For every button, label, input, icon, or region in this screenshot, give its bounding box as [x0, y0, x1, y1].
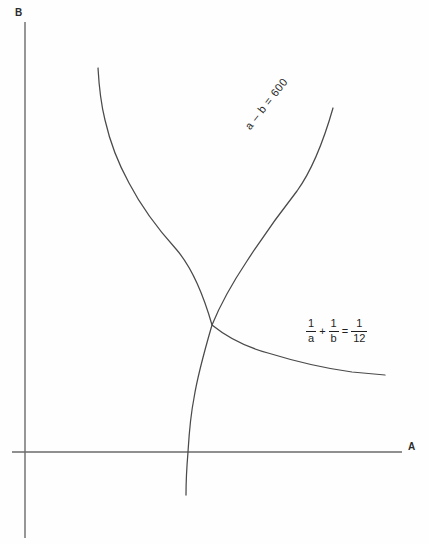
- graph-figure: B A a – b = 600 1 a + 1 b = 1 12: [0, 0, 429, 544]
- fraction-numerator: 1: [329, 318, 339, 331]
- equals-operator: =: [342, 326, 348, 337]
- graph-canvas: [0, 0, 429, 544]
- fraction-one-over-a: 1 a: [306, 318, 316, 344]
- fraction-denominator: a: [306, 331, 316, 345]
- plus-operator: +: [319, 326, 325, 337]
- fraction-numerator: 1: [306, 318, 316, 331]
- fraction-denominator: 12: [351, 331, 367, 345]
- curve-difference-600: [186, 108, 333, 495]
- y-axis-label: B: [15, 8, 22, 18]
- fraction-denominator: b: [329, 331, 339, 345]
- fraction-one-over-b: 1 b: [329, 318, 339, 344]
- x-axis-label: A: [408, 442, 415, 452]
- reciprocal-equation-label: 1 a + 1 b = 1 12: [305, 318, 368, 344]
- fraction-one-over-twelve: 1 12: [351, 318, 367, 344]
- fraction-numerator: 1: [354, 318, 364, 331]
